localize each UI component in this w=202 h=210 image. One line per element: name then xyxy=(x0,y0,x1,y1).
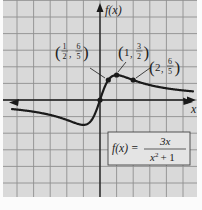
svg-text:,: , xyxy=(69,48,72,59)
svg-text:5: 5 xyxy=(168,67,172,76)
svg-text:1: 1 xyxy=(63,42,67,51)
formula-lhs: f(x) = xyxy=(112,142,139,155)
point-one xyxy=(114,72,119,77)
function-graph: f(x) x ( 1 2 , 6 5 ) ( 1 , 3 2 ) ( 2 , 6… xyxy=(0,0,202,210)
svg-text:2: 2 xyxy=(63,52,67,61)
y-axis-label: f(x) xyxy=(105,3,122,17)
svg-text:2: 2 xyxy=(155,61,161,73)
svg-text:,: , xyxy=(130,48,133,59)
point-origin xyxy=(97,97,102,102)
svg-text:5: 5 xyxy=(77,52,81,61)
svg-text:1: 1 xyxy=(124,46,130,58)
svg-text:6: 6 xyxy=(77,42,81,51)
svg-text:(: ( xyxy=(55,43,61,62)
formula-denominator: x2+ 1 xyxy=(149,151,175,163)
point-two xyxy=(131,77,136,82)
svg-text:,: , xyxy=(161,63,164,74)
formula-box: f(x) = 3x x2+ 1 xyxy=(108,132,190,165)
point-half xyxy=(106,77,111,82)
svg-text:3: 3 xyxy=(137,42,141,51)
svg-text:): ) xyxy=(83,43,89,62)
svg-text:6: 6 xyxy=(168,57,172,66)
x-axis-label: x xyxy=(190,102,197,116)
svg-text:): ) xyxy=(175,58,181,77)
svg-text:2: 2 xyxy=(137,52,141,61)
formula-numerator: 3x xyxy=(159,135,171,147)
